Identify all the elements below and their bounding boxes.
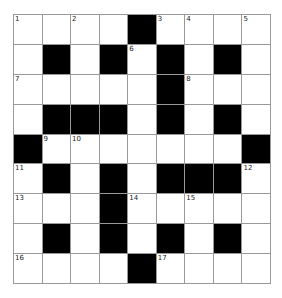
clue-number: 13	[15, 194, 24, 202]
answer-cell[interactable]	[42, 74, 71, 104]
answer-cell[interactable]: 8	[184, 74, 213, 104]
answer-cell[interactable]	[42, 253, 71, 283]
answer-cell[interactable]	[70, 253, 99, 283]
clue-number: 10	[72, 135, 81, 143]
answer-cell[interactable]: 3	[156, 14, 185, 44]
crossword-grid: 1234567891011121314151617	[13, 14, 271, 284]
answer-cell[interactable]: 6	[127, 44, 156, 74]
clue-number: 3	[158, 15, 162, 23]
answer-cell[interactable]	[156, 193, 185, 223]
answer-cell[interactable]: 13	[13, 193, 42, 223]
answer-cell[interactable]	[184, 44, 213, 74]
block-cell	[156, 163, 185, 193]
answer-cell[interactable]	[156, 134, 185, 164]
answer-cell[interactable]	[184, 253, 213, 283]
block-cell	[156, 44, 185, 74]
clue-number: 6	[129, 45, 133, 53]
clue-number: 14	[129, 194, 138, 202]
clue-number: 7	[15, 75, 19, 83]
answer-cell[interactable]	[241, 253, 270, 283]
clue-number: 8	[186, 75, 190, 83]
answer-cell[interactable]	[184, 104, 213, 134]
answer-cell[interactable]	[127, 134, 156, 164]
block-cell	[99, 193, 128, 223]
clue-number: 1	[15, 15, 19, 23]
block-cell	[42, 104, 71, 134]
block-cell	[99, 44, 128, 74]
block-cell	[213, 104, 242, 134]
block-cell	[70, 104, 99, 134]
answer-cell[interactable]	[70, 193, 99, 223]
answer-cell[interactable]	[213, 253, 242, 283]
answer-cell[interactable]	[241, 223, 270, 253]
answer-cell[interactable]: 16	[13, 253, 42, 283]
answer-cell[interactable]	[99, 134, 128, 164]
answer-cell[interactable]: 15	[184, 193, 213, 223]
block-cell	[13, 134, 42, 164]
answer-cell[interactable]	[13, 44, 42, 74]
block-cell	[42, 163, 71, 193]
clue-number: 11	[15, 164, 24, 172]
answer-cell[interactable]	[127, 74, 156, 104]
block-cell	[213, 223, 242, 253]
block-cell	[156, 74, 185, 104]
answer-cell[interactable]: 2	[70, 14, 99, 44]
answer-cell[interactable]	[213, 193, 242, 223]
block-cell	[241, 134, 270, 164]
block-cell	[127, 253, 156, 283]
block-cell	[42, 44, 71, 74]
clue-number: 17	[158, 254, 167, 262]
answer-cell[interactable]: 7	[13, 74, 42, 104]
clue-number: 4	[186, 15, 190, 23]
block-cell	[127, 14, 156, 44]
answer-cell[interactable]: 12	[241, 163, 270, 193]
block-cell	[99, 104, 128, 134]
answer-cell[interactable]: 4	[184, 14, 213, 44]
answer-cell[interactable]	[241, 44, 270, 74]
block-cell	[184, 163, 213, 193]
answer-cell[interactable]: 1	[13, 14, 42, 44]
answer-cell[interactable]	[241, 104, 270, 134]
answer-cell[interactable]	[70, 223, 99, 253]
clue-number: 16	[15, 254, 24, 262]
answer-cell[interactable]: 10	[70, 134, 99, 164]
answer-cell[interactable]: 17	[156, 253, 185, 283]
block-cell	[99, 163, 128, 193]
block-cell	[156, 104, 185, 134]
block-cell	[99, 223, 128, 253]
answer-cell[interactable]	[70, 74, 99, 104]
answer-cell[interactable]	[213, 74, 242, 104]
answer-cell[interactable]	[99, 14, 128, 44]
clue-number: 9	[44, 135, 48, 143]
answer-cell[interactable]	[42, 14, 71, 44]
block-cell	[213, 163, 242, 193]
block-cell	[42, 223, 71, 253]
answer-cell[interactable]	[213, 134, 242, 164]
clue-number: 12	[243, 164, 252, 172]
answer-cell[interactable]	[99, 253, 128, 283]
answer-cell[interactable]: 14	[127, 193, 156, 223]
answer-cell[interactable]	[42, 193, 71, 223]
clue-number: 2	[72, 15, 76, 23]
answer-cell[interactable]	[70, 44, 99, 74]
clue-number: 15	[186, 194, 195, 202]
answer-cell[interactable]	[184, 223, 213, 253]
answer-cell[interactable]	[13, 223, 42, 253]
answer-cell[interactable]	[241, 193, 270, 223]
answer-cell[interactable]	[70, 163, 99, 193]
block-cell	[213, 44, 242, 74]
clue-number: 5	[243, 15, 247, 23]
answer-cell[interactable]: 9	[42, 134, 71, 164]
answer-cell[interactable]	[241, 74, 270, 104]
answer-cell[interactable]: 5	[241, 14, 270, 44]
answer-cell[interactable]	[127, 223, 156, 253]
answer-cell[interactable]	[184, 134, 213, 164]
answer-cell[interactable]	[127, 163, 156, 193]
block-cell	[156, 223, 185, 253]
answer-cell[interactable]: 11	[13, 163, 42, 193]
answer-cell[interactable]	[13, 104, 42, 134]
answer-cell[interactable]	[213, 14, 242, 44]
answer-cell[interactable]	[127, 104, 156, 134]
answer-cell[interactable]	[99, 74, 128, 104]
